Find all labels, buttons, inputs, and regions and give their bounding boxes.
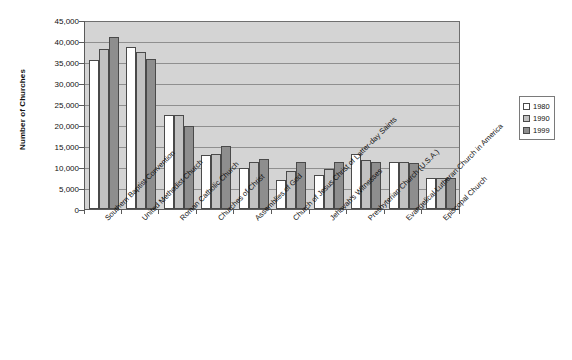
y-axis-tick-mark <box>79 168 84 169</box>
y-axis-tick-label: 10,000 <box>5 164 79 173</box>
legend: 1980 1990 1999 <box>519 96 555 140</box>
y-axis-tick-mark <box>79 21 84 22</box>
bar[interactable] <box>109 37 119 209</box>
legend-item: 1980 <box>523 100 550 112</box>
y-axis-tick-mark <box>79 147 84 148</box>
x-axis-category-label: Assemblies of God <box>253 216 259 222</box>
y-axis-tick-mark <box>79 105 84 106</box>
x-axis-category-label: Presbyterian Church (U.S.A.) <box>366 216 372 222</box>
y-axis-tick-mark <box>79 210 84 211</box>
y-axis-tick-label: 5,000 <box>5 185 79 194</box>
x-axis-category-label: Southern Baptist Convention <box>103 216 109 222</box>
y-axis-tick-label: 45,000 <box>5 17 79 26</box>
legend-item: 1990 <box>523 112 550 124</box>
y-axis-tick-mark <box>79 42 84 43</box>
x-axis-category-label: Evangelical Lutheran Church in America <box>404 216 410 222</box>
x-axis-category-label: Roman Catholic Church <box>178 216 184 222</box>
y-axis-tick-label: 20,000 <box>5 122 79 131</box>
bar-chart: Number of Churches 05,00010,00015,00020,… <box>0 0 572 360</box>
y-axis-tick-label: 40,000 <box>5 38 79 47</box>
bar-group <box>85 21 123 209</box>
y-axis-tick-label: 0 <box>5 206 79 215</box>
legend-label-1999: 1999 <box>533 126 550 135</box>
y-axis-tick-mark <box>79 84 84 85</box>
x-axis-category-label: Churches of Christ <box>216 216 222 222</box>
x-axis-category-label: Church of Jesus Christ of Latter-day Sai… <box>291 216 297 222</box>
y-axis-tick-label: 15,000 <box>5 143 79 152</box>
x-axis-category-label: Jehovah's Witnesses <box>328 216 334 222</box>
bar[interactable] <box>89 60 99 209</box>
bar[interactable] <box>146 59 156 209</box>
bar[interactable] <box>174 115 184 210</box>
y-axis-tick-label: 35,000 <box>5 59 79 68</box>
legend-swatch-1980-icon <box>523 103 530 110</box>
legend-item: 1999 <box>523 124 550 136</box>
y-axis-tick-label: 25,000 <box>5 101 79 110</box>
x-axis-category-label: Episcopal Church <box>441 216 447 222</box>
y-axis-tick-label: 30,000 <box>5 80 79 89</box>
legend-swatch-1990-icon <box>523 115 530 122</box>
x-axis-category-labels: Southern Baptist ConventionUnited Method… <box>84 214 460 354</box>
y-axis-tick-mark <box>79 63 84 64</box>
y-axis-tick-labels: 05,00010,00015,00020,00025,00030,00035,0… <box>0 21 79 210</box>
y-axis-tick-mark <box>79 126 84 127</box>
legend-swatch-1999-icon <box>523 127 530 134</box>
legend-label-1990: 1990 <box>533 114 550 123</box>
bar[interactable] <box>99 49 109 209</box>
legend-label-1980: 1980 <box>533 102 550 111</box>
y-axis-tick-mark <box>79 189 84 190</box>
x-axis-category-label: United Methodist Church <box>140 216 146 222</box>
